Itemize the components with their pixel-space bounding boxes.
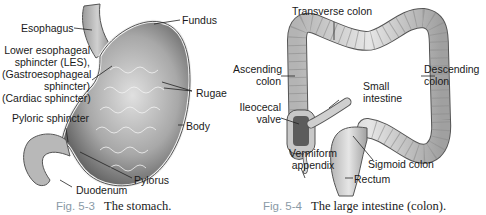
vermiform-line-1: Vermiform [287,147,339,159]
les-line-4: sphincter) [2,80,90,92]
small-intestine-line-1: Small [363,80,402,92]
figure-number: Fig. 5-3 [56,200,95,212]
les-line-1: Lower esophageal [2,44,90,56]
figure-stomach: Esophagus Fundus Lower esophageal sphinc… [0,0,243,215]
figure-colon: Transverse colon Ascending colon Descend… [243,0,486,215]
label-small-intestine: Small intestine [363,80,402,104]
vermiform-line-2: appendix [287,159,339,171]
ileocecal-line-2: valve [235,113,281,125]
label-pyloric-sphincter: Pyloric sphincter [12,112,89,124]
label-sigmoid-colon: Sigmoid colon [368,158,434,170]
label-body: Body [186,120,210,132]
label-pylorus: Pylorus [134,174,169,186]
figure-caption-stomach: Fig. 5-3The stomach. [56,199,171,214]
label-transverse-colon: Transverse colon [277,5,387,17]
label-ascending-colon: Ascending colon [233,63,281,87]
label-descending-colon: Descending colon [424,63,479,87]
label-esophagus: Esophagus [21,22,74,34]
label-fundus: Fundus [182,14,217,26]
figure-title: The stomach. [104,199,171,213]
ileocecal-line-1: Ileocecal [235,101,281,113]
ascending-line-2: colon [233,75,281,87]
small-intestine-line-2: intestine [363,92,402,104]
figure-number: Fig. 5-4 [263,200,302,212]
label-rugae: Rugae [196,87,227,99]
figure-caption-colon: Fig. 5-4The large intestine (colon). [263,199,446,214]
les-line-2: sphincter (LES), [2,56,90,68]
descending-line-1: Descending [424,63,479,75]
ascending-line-1: Ascending [233,63,281,75]
label-ileocecal-valve: Ileocecal valve [235,101,281,125]
descending-line-2: colon [424,75,479,87]
label-rectum: Rectum [354,173,390,185]
label-vermiform-appendix: Vermiform appendix [287,147,339,171]
label-duodenum: Duodenum [76,184,127,196]
les-line-3: (Gastroesophageal [2,68,90,80]
figure-title: The large intestine (colon). [311,199,446,213]
les-line-5: (Cardiac sphincter) [2,92,90,104]
label-lower-esophageal-sphincter: Lower esophageal sphincter (LES), (Gastr… [2,44,90,104]
